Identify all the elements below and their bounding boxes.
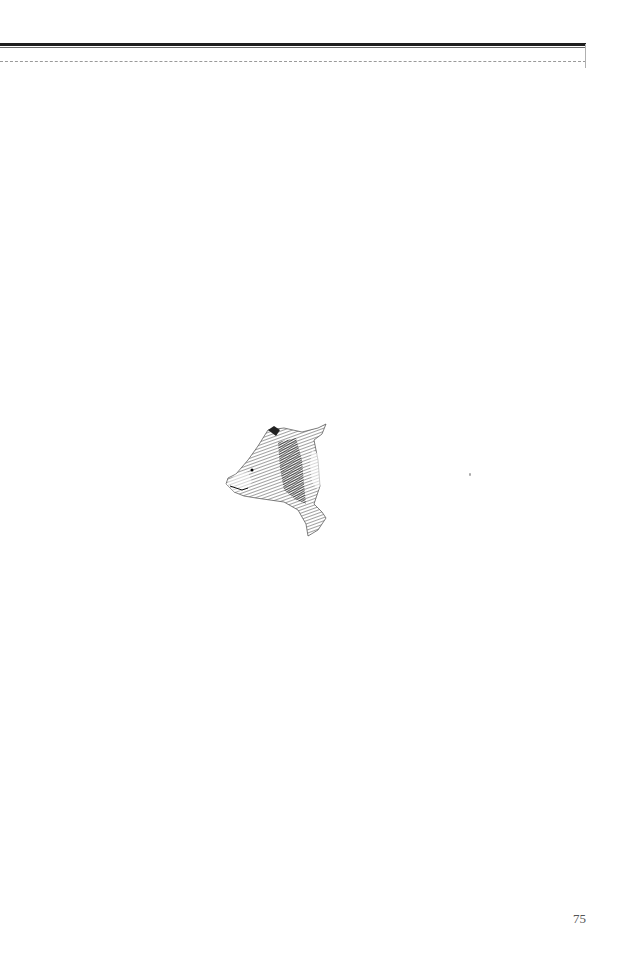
bear-head-illustration	[222, 420, 334, 540]
header-rule-thick	[0, 43, 586, 46]
bear-head-icon	[222, 420, 334, 540]
ink-speck	[469, 473, 471, 476]
header-rule-end-tick	[585, 44, 586, 68]
page-number: 75	[573, 911, 586, 927]
header-rule-dashed	[0, 61, 586, 62]
header-rule-thin	[0, 47, 586, 48]
